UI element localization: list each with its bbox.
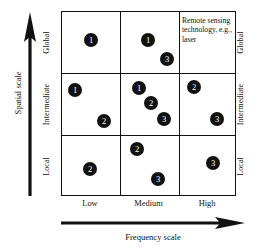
data-point-1: 1 (141, 33, 155, 47)
y-tick-global-left: Global (42, 15, 51, 71)
data-point-3: 3 (210, 112, 224, 126)
y-tick-intermediate-right: Intermediate (236, 77, 245, 133)
y-tick-local-right: Local (236, 139, 245, 195)
data-point-2: 2 (187, 80, 201, 94)
x-tick-medium: Medium (119, 199, 178, 208)
data-point-2: 2 (97, 114, 111, 128)
grid-divider-horizontal-2 (62, 135, 235, 136)
data-point-3: 3 (206, 156, 220, 170)
grid-divider-vertical-1 (120, 12, 121, 195)
x-tick-low: Low (61, 199, 119, 208)
data-point-3: 3 (151, 172, 165, 186)
y-tick-global-right: Global (236, 15, 245, 71)
y-tick-intermediate-left: Intermediate (42, 77, 51, 133)
frequency-scale-arrow-icon (61, 216, 245, 230)
data-point-1: 1 (84, 33, 98, 47)
spatial-scale-arrow-icon (23, 12, 37, 196)
data-point-1: 1 (132, 81, 146, 95)
x-tick-high: High (178, 199, 236, 208)
data-point-1: 1 (68, 83, 82, 97)
data-point-2: 2 (83, 162, 97, 176)
grid-divider-horizontal-1 (62, 73, 235, 74)
matrix-diagram: Spatial scale Global Intermediate Local … (0, 0, 276, 250)
data-point-2: 2 (130, 142, 144, 156)
data-point-3: 3 (160, 52, 174, 66)
x-axis-title: Frequency scale (61, 232, 245, 242)
data-point-3: 3 (157, 112, 171, 126)
y-tick-local-left: Local (42, 139, 51, 195)
data-point-2: 2 (144, 96, 158, 110)
matrix-grid: Remote sensing technology, e.g., laser 1… (61, 11, 236, 196)
grid-divider-vertical-2 (179, 12, 180, 195)
annotation-remote-sensing: Remote sensing technology, e.g., laser (182, 16, 234, 44)
y-axis-title: Spatial scale (13, 53, 23, 133)
